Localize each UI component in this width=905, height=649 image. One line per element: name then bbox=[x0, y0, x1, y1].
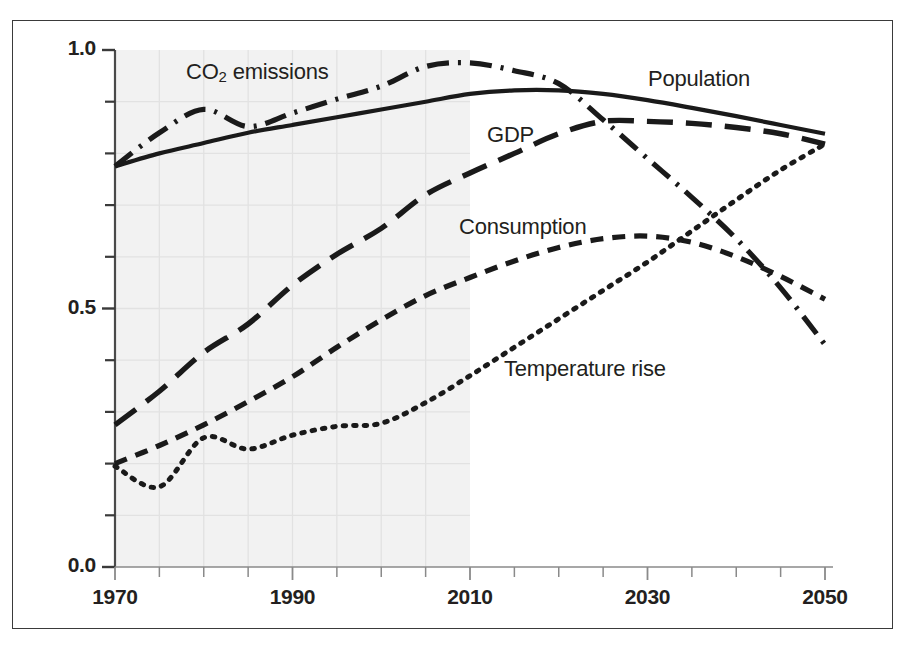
x-tick-label: 2030 bbox=[603, 585, 693, 609]
x-tick-label: 1990 bbox=[248, 585, 338, 609]
chart-figure: 1.00.50.0 19701990201020302050 CO2 emiss… bbox=[0, 0, 905, 649]
series-label-gdp: GDP bbox=[487, 122, 534, 148]
chart-plot-area bbox=[0, 0, 905, 649]
y-tick-label: 0.0 bbox=[46, 553, 96, 577]
series-label-consumption: Consumption bbox=[459, 214, 586, 240]
x-tick-label: 2010 bbox=[425, 585, 515, 609]
x-tick-label: 1970 bbox=[70, 585, 160, 609]
series-label-temperature: Temperature rise bbox=[504, 356, 666, 382]
series-label-population: Population bbox=[648, 66, 750, 92]
x-tick-label: 2050 bbox=[780, 585, 870, 609]
y-tick-label: 1.0 bbox=[46, 36, 96, 60]
series-label-co2: CO2 emissions bbox=[186, 59, 329, 85]
y-tick-label: 0.5 bbox=[46, 295, 96, 319]
